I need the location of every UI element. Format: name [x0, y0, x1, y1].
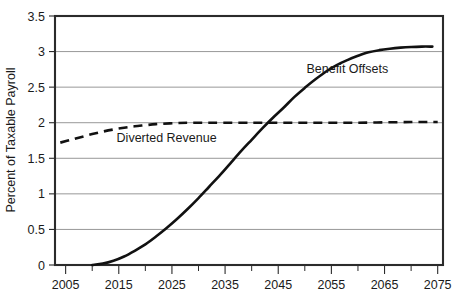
y-tick-label: 1 — [38, 187, 45, 201]
x-axis-tickmarks — [66, 265, 438, 274]
line-chart: 00.511.522.533.5 20052015202520352045205… — [0, 0, 457, 306]
y-tick-label: 3.5 — [28, 10, 45, 24]
y-tick-label: 1.5 — [28, 152, 45, 166]
plot-background — [55, 16, 443, 265]
y-tick-label: 2 — [38, 116, 45, 130]
x-tick-label: 2065 — [371, 278, 399, 292]
x-tick-label: 2045 — [264, 278, 292, 292]
y-tick-label: 3 — [38, 45, 45, 59]
chart-page: 00.511.522.533.5 20052015202520352045205… — [0, 0, 457, 306]
x-tick-label: 2075 — [424, 278, 452, 292]
x-tick-label: 2015 — [105, 278, 133, 292]
y-axis-title: Percent of Taxable Payroll — [4, 68, 18, 213]
y-tick-label: 0.5 — [28, 223, 45, 237]
x-tick-label: 2005 — [52, 278, 80, 292]
y-tick-label: 2.5 — [28, 81, 45, 95]
y-tick-label: 0 — [38, 259, 45, 273]
x-tick-label: 2055 — [317, 278, 345, 292]
annotation-benefit-offsets: Benefit Offsets — [306, 62, 388, 76]
annotation-diverted-revenue: Diverted Revenue — [117, 131, 217, 145]
y-axis-tick-labels: 00.511.522.533.5 — [28, 10, 45, 273]
x-tick-label: 2035 — [211, 278, 239, 292]
x-axis-tick-labels: 20052015202520352045205520652075 — [52, 278, 452, 292]
x-tick-label: 2025 — [158, 278, 186, 292]
